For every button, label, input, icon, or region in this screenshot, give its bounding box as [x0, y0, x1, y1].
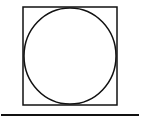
geometry-diagram	[0, 0, 147, 135]
inscribed-circle	[24, 8, 116, 104]
